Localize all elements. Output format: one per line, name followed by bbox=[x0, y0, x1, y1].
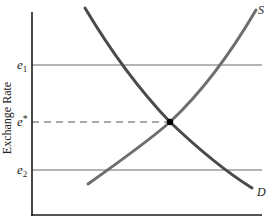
demand-label: D bbox=[256, 185, 266, 199]
e-star-label: e* bbox=[17, 113, 28, 129]
e1-label: e1 bbox=[17, 57, 27, 74]
e2-label: e2 bbox=[17, 162, 27, 179]
exchange-rate-diagram: e1 e* e2 Exchange Rate S D bbox=[0, 0, 270, 224]
supply-label: S bbox=[258, 3, 264, 17]
demand-curve bbox=[85, 8, 252, 188]
supply-curve bbox=[88, 10, 256, 184]
y-axis-title: Exchange Rate bbox=[0, 82, 14, 154]
equilibrium-point bbox=[167, 119, 173, 125]
